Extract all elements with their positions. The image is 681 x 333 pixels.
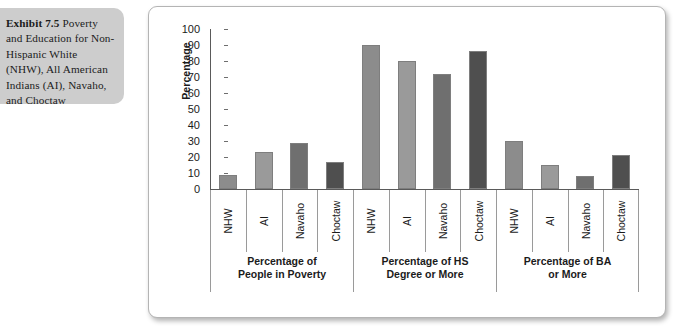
- group-caption-line-2: Degree or More: [382, 268, 469, 281]
- category-label: Navaho: [294, 203, 306, 239]
- y-tick-label: 20: [188, 149, 200, 165]
- category-cell: AI: [389, 190, 425, 252]
- exhibit-caption-block: Exhibit 7.5 Poverty and Education for No…: [0, 8, 124, 104]
- y-tick-label: 10: [188, 165, 200, 181]
- category-label: Navaho: [580, 203, 592, 239]
- category-cell: NHW: [353, 190, 389, 252]
- group-caption-cell: Percentage of BAor More: [496, 252, 639, 292]
- bar: [398, 61, 416, 189]
- group-caption-line-2: People in Poverty: [238, 268, 326, 281]
- category-cell: NHW: [210, 190, 246, 252]
- bar: [255, 152, 273, 189]
- exhibit-caption-body: Poverty and Education for Non-Hispanic W…: [6, 17, 114, 106]
- bar: [541, 165, 559, 189]
- y-tick-label: 90: [188, 37, 200, 53]
- bar: [612, 155, 630, 189]
- bar: [433, 74, 451, 189]
- bar: [326, 162, 344, 189]
- category-cell: Choctaw: [460, 190, 496, 252]
- category-label: Navaho: [437, 203, 449, 239]
- group-caption-line-1: Percentage of BA: [524, 255, 612, 268]
- y-tick-label: 60: [188, 85, 200, 101]
- bar: [290, 143, 308, 189]
- y-axis-tick-labels: 1009080706050403020100: [167, 21, 206, 197]
- category-cell: Navaho: [568, 190, 604, 252]
- y-tick-label: 100: [182, 21, 200, 37]
- category-cell: Choctaw: [603, 190, 639, 252]
- group-caption-label: Percentage of HSDegree or More: [382, 255, 469, 281]
- category-cell: Navaho: [282, 190, 318, 252]
- category-label: AI: [544, 216, 556, 226]
- group-caption-label: Percentage of BAor More: [524, 255, 612, 281]
- y-tick-label: 30: [188, 133, 200, 149]
- category-label-strip: NHWAINavahoChoctawNHWAINavahoChoctawNHWA…: [210, 190, 639, 252]
- chart-frame: Percentage 1009080706050403020100 NHWAIN…: [148, 6, 666, 318]
- category-cell: AI: [246, 190, 282, 252]
- category-cell: Navaho: [425, 190, 461, 252]
- category-label: NHW: [508, 208, 520, 233]
- category-label: Choctaw: [473, 201, 485, 242]
- category-label: AI: [401, 216, 413, 226]
- group-caption-strip: Percentage ofPeople in PovertyPercentage…: [210, 252, 639, 292]
- category-cell: AI: [532, 190, 568, 252]
- bar: [219, 175, 237, 189]
- group-caption-cell: Percentage ofPeople in Poverty: [210, 252, 353, 292]
- category-label: Choctaw: [615, 201, 627, 242]
- group-caption-line-1: Percentage of: [238, 255, 326, 268]
- category-label: NHW: [222, 208, 234, 233]
- group-caption-line-2: or More: [524, 268, 612, 281]
- group-caption-label: Percentage ofPeople in Poverty: [238, 255, 326, 281]
- category-label: Choctaw: [330, 201, 342, 242]
- bar: [505, 141, 523, 189]
- y-tick-label: 40: [188, 117, 200, 133]
- group-caption-line-1: Percentage of HS: [382, 255, 469, 268]
- category-cell: NHW: [496, 190, 532, 252]
- y-tick-label: 70: [188, 69, 200, 85]
- y-tick-label: 0: [194, 181, 200, 197]
- category-label: AI: [258, 216, 270, 226]
- bar: [469, 51, 487, 189]
- category-cell: Choctaw: [317, 190, 353, 252]
- bar: [576, 176, 594, 189]
- bar: [362, 45, 380, 189]
- category-label: NHW: [365, 208, 377, 233]
- y-tick-label: 50: [188, 101, 200, 117]
- bars-layer: [210, 29, 639, 189]
- group-caption-cell: Percentage of HSDegree or More: [353, 252, 496, 292]
- y-tick-label: 80: [188, 53, 200, 69]
- exhibit-caption-text: Exhibit 7.5 Poverty and Education for No…: [6, 16, 116, 108]
- exhibit-number: Exhibit 7.5: [6, 17, 59, 29]
